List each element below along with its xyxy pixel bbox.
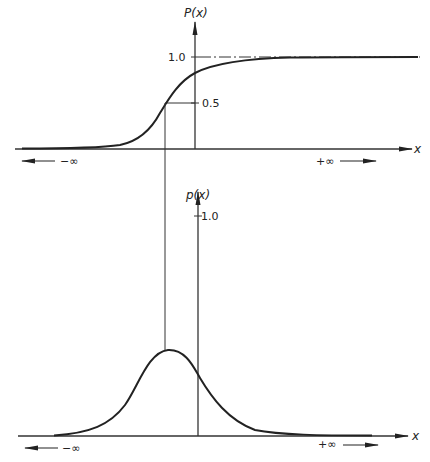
lower-neg-infinity: −∞ — [25, 442, 80, 455]
svg-text:−∞: −∞ — [62, 442, 80, 455]
lower-x-axis-label: x — [411, 429, 420, 443]
pdf-curve — [54, 350, 372, 436]
upper-plot: x P(x) 1.0 0.5 −∞ +∞ — [15, 6, 422, 168]
svg-text:−∞: −∞ — [60, 155, 78, 168]
lower-plot: x p(x) 1.0 −∞ +∞ — [18, 188, 420, 455]
cdf-curve — [22, 57, 418, 149]
upper-y-axis-label: P(x) — [184, 6, 208, 20]
lower-y-axis-label: p(x) — [185, 188, 210, 202]
upper-tick-1-label: 1.0 — [168, 51, 186, 64]
lower-tick-1-label: 1.0 — [201, 210, 219, 223]
upper-pos-infinity: +∞ — [316, 155, 376, 168]
upper-x-axis-label: x — [413, 142, 422, 156]
svg-text:+∞: +∞ — [318, 438, 336, 451]
svg-text:+∞: +∞ — [316, 155, 334, 168]
lower-pos-infinity: +∞ — [318, 438, 378, 451]
upper-tick-05-label: 0.5 — [202, 97, 220, 110]
probability-distribution-diagram: x P(x) 1.0 0.5 −∞ +∞ x p(x) — [0, 0, 430, 462]
upper-neg-infinity: −∞ — [22, 155, 78, 168]
